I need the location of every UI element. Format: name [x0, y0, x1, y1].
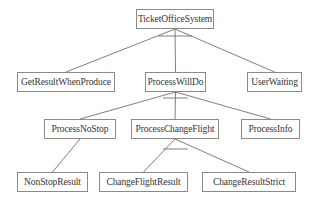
node-get-result-when-produce: GetResultWhenProduce	[17, 72, 115, 92]
edge-line	[175, 29, 275, 72]
node-process-no-stop: ProcessNoStop	[44, 119, 116, 139]
node-label: ProcessWillDo	[148, 77, 204, 87]
node-process-will-do: ProcessWillDo	[145, 72, 206, 92]
edge-line	[144, 139, 176, 172]
node-non-stop-result: NonStopResult	[17, 172, 88, 192]
node-change-flight-result: ChangeFlightResult	[99, 172, 188, 192]
node-label: UserWaiting	[251, 77, 298, 87]
edge-line	[53, 139, 81, 172]
node-label: ChangeFlightResult	[106, 177, 180, 187]
edge-line	[175, 29, 176, 72]
node-label: ProcessNoStop	[52, 124, 109, 134]
node-user-waiting: UserWaiting	[247, 72, 302, 92]
node-process-change-flight: ProcessChangeFlight	[131, 119, 219, 139]
node-label: ProcessChangeFlight	[136, 124, 215, 134]
node-label: GetResultWhenProduce	[21, 77, 111, 87]
node-label: ChangeResultStrict	[213, 177, 285, 187]
edge-line	[80, 92, 176, 119]
edge-line	[175, 92, 176, 119]
node-change-result-strict: ChangeResultStrict	[202, 172, 296, 192]
edge-line	[176, 92, 271, 119]
edge-line	[175, 139, 249, 172]
node-label: ProcessInfo	[249, 124, 293, 134]
node-label: NonStopResult	[24, 177, 81, 187]
diagram-canvas: TicketOfficeSystem GetResultWhenProduce …	[0, 0, 317, 205]
node-process-info: ProcessInfo	[241, 119, 300, 139]
node-ticket-office-system: TicketOfficeSystem	[136, 9, 214, 29]
node-label: TicketOfficeSystem	[138, 14, 212, 24]
edge-line	[66, 29, 175, 72]
